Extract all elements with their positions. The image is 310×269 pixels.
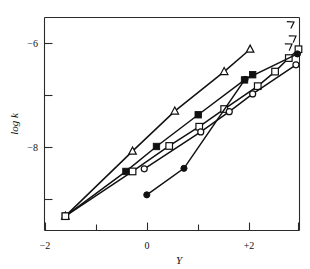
data-point-circle-open [141,166,147,172]
data-point-circle-filled [144,192,150,198]
data-point-circle-open [226,109,232,115]
x-tick-label-0: 0 [145,240,150,251]
x-axis-ticks [46,223,299,231]
y-axis-ticks [45,44,53,200]
data-point-circle-filled [181,165,187,171]
data-point-square-filled [153,143,159,149]
y-tick-label--6: −6 [27,38,38,49]
data-point-circle-filled [294,51,300,57]
data-point-circle-filled [242,76,248,82]
data-point-square-open [166,143,173,150]
x-tick-label-2: +2 [244,240,255,251]
scatter-plot: −6 −8 −2 0 +2 Y log k [0,0,310,269]
data-point-circle-open [250,91,256,97]
series-open-square [62,46,302,220]
data-point-square-open [272,68,279,75]
data-point-square-open [62,213,69,220]
series-layer [62,19,302,220]
data-point-square-open [129,168,136,175]
series-open-triangle [62,45,254,219]
y-tick-label--8: −8 [27,142,38,153]
x-tick-label--2: −2 [40,240,51,251]
arrowhead-icon [289,33,298,43]
data-point-triangle-open [246,45,254,52]
data-point-circle-open [293,62,299,68]
data-point-square-filled [195,112,201,118]
arrowhead-stroke [287,19,296,29]
arrowhead-stroke [289,33,298,43]
y-axis-title: log k [8,112,20,135]
arrowhead-icon [287,19,296,29]
series-filled-square [62,72,256,220]
data-point-circle-open [198,129,204,135]
figure-container: −6 −8 −2 0 +2 Y log k [0,0,310,269]
x-axis-title: Y [176,254,184,266]
